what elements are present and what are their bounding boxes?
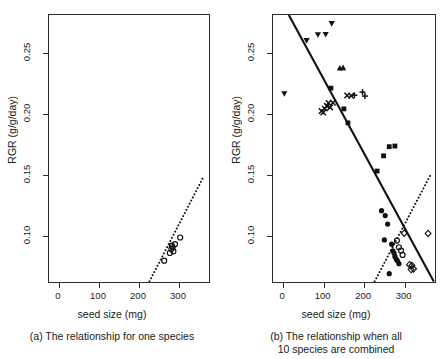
regression-line-dotted bbox=[149, 178, 203, 282]
x-tick bbox=[324, 282, 325, 288]
data-point bbox=[178, 235, 183, 240]
x-tick-label: 100 bbox=[90, 291, 106, 301]
y-tick bbox=[43, 53, 49, 54]
panel-b-caption-line1: (b) The relationship when all bbox=[224, 330, 448, 343]
y-tick-label: 0.25 bbox=[246, 43, 256, 62]
x-tick bbox=[283, 282, 284, 288]
y-tick bbox=[43, 175, 49, 176]
data-point bbox=[375, 169, 380, 174]
data-point bbox=[387, 144, 392, 149]
y-tick bbox=[43, 236, 49, 237]
plot-canvas-b bbox=[273, 15, 437, 284]
y-axis-title: RGR (g/g/day) bbox=[230, 96, 242, 164]
panel-b: RGR (g/g/day) seed size (mg) (b) The rel… bbox=[224, 0, 448, 359]
x-axis-title: seed size (mg) bbox=[224, 308, 448, 320]
data-point bbox=[329, 21, 335, 27]
data-point bbox=[382, 237, 387, 242]
y-tick bbox=[43, 114, 49, 115]
x-tick bbox=[139, 282, 140, 288]
x-tick-label: 100 bbox=[315, 291, 331, 301]
data-point bbox=[379, 208, 384, 213]
y-tick bbox=[267, 53, 273, 54]
data-point bbox=[383, 213, 388, 218]
figure-simpsons-paradox: RGR (g/g/day) seed size (mg) (a) The rel… bbox=[0, 0, 448, 359]
x-tick bbox=[99, 282, 100, 288]
x-tick bbox=[364, 282, 365, 288]
data-point bbox=[323, 32, 329, 38]
data-point bbox=[389, 242, 394, 247]
y-tick-label: 0.10 bbox=[22, 225, 32, 244]
data-point bbox=[425, 230, 431, 236]
data-point bbox=[329, 86, 334, 91]
y-tick-label: 0.15 bbox=[246, 164, 256, 183]
plot-area-a bbox=[48, 14, 210, 283]
panel-a: RGR (g/g/day) seed size (mg) (a) The rel… bbox=[0, 0, 224, 359]
x-tick-label: 300 bbox=[170, 291, 186, 301]
y-tick-label: 0.15 bbox=[22, 164, 32, 183]
y-axis-title: RGR (g/g/day) bbox=[6, 96, 18, 164]
y-tick-label: 0.20 bbox=[246, 104, 256, 123]
x-tick bbox=[59, 282, 60, 288]
y-tick-label: 0.10 bbox=[246, 225, 256, 244]
data-point bbox=[162, 258, 167, 263]
panel-b-caption-line2: 10 species are combined bbox=[224, 343, 448, 356]
data-point bbox=[281, 91, 287, 97]
data-point bbox=[385, 221, 390, 226]
data-point bbox=[330, 100, 335, 105]
regression-line-solid bbox=[289, 15, 434, 281]
data-point bbox=[341, 106, 346, 111]
plot-canvas-a bbox=[49, 15, 211, 284]
x-tick-label: 0 bbox=[279, 291, 284, 301]
x-tick-label: 300 bbox=[396, 291, 412, 301]
x-tick bbox=[179, 282, 180, 288]
data-point bbox=[396, 261, 401, 266]
x-tick-label: 0 bbox=[55, 291, 60, 301]
data-point bbox=[315, 32, 321, 38]
y-tick-label: 0.25 bbox=[22, 43, 32, 62]
data-point bbox=[393, 144, 398, 149]
x-tick-label: 200 bbox=[130, 291, 146, 301]
panel-a-caption: (a) The relationship for one species bbox=[0, 330, 224, 343]
x-tick-label: 200 bbox=[355, 291, 371, 301]
x-axis-title: seed size (mg) bbox=[0, 308, 224, 320]
plot-area-b bbox=[272, 14, 436, 283]
y-tick-label: 0.20 bbox=[22, 104, 32, 123]
data-point bbox=[346, 120, 351, 125]
y-tick bbox=[267, 236, 273, 237]
x-tick bbox=[405, 282, 406, 288]
data-point bbox=[381, 153, 386, 158]
data-point bbox=[387, 271, 392, 276]
y-tick bbox=[267, 175, 273, 176]
y-tick bbox=[267, 114, 273, 115]
